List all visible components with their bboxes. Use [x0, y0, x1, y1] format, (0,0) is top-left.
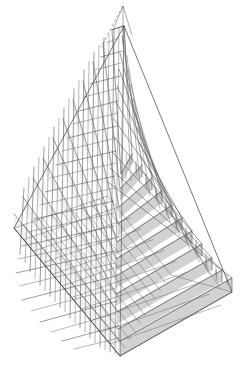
figure-canvas: Stepped pyramid mesh surface	[0, 0, 246, 375]
stepped-pyramid-mesh: Stepped pyramid mesh surface	[0, 0, 246, 375]
